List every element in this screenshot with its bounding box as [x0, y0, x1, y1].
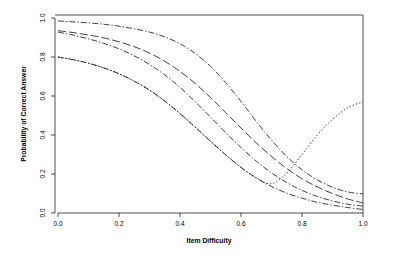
y-tick-label: 0.6: [39, 91, 46, 100]
x-tick-label: 0.0: [53, 220, 62, 227]
y-axis-title: Probability of Correct Answer: [20, 66, 28, 162]
x-axis-ticks: [58, 213, 363, 217]
x-axis-tick-labels: 0.0 0.2 0.4 0.6 0.8 1.0: [53, 220, 367, 227]
y-tick-label: 0.2: [39, 169, 46, 178]
y-tick-label: 0.8: [39, 52, 46, 61]
y-tick-label: 0.4: [39, 130, 46, 139]
x-axis-title: Item Difficulty: [187, 237, 232, 245]
y-tick-label: 1.0: [39, 13, 46, 22]
x-tick-label: 0.8: [297, 220, 306, 227]
y-tick-label: 0.0: [39, 208, 46, 217]
plot-area-background: [55, 15, 363, 213]
y-axis: 1.0 0.8 0.6 0.4 0.2 0.0 Probability of C…: [20, 13, 55, 217]
x-tick-label: 0.6: [236, 220, 245, 227]
x-tick-label: 0.2: [114, 220, 123, 227]
x-tick-label: 1.0: [358, 220, 367, 227]
y-axis-ticks: [51, 18, 55, 213]
x-axis: 0.0 0.2 0.4 0.6 0.8 1.0 Item Difficulty: [53, 213, 367, 245]
x-tick-label: 0.4: [175, 220, 184, 227]
item-characteristic-curve-chart: 1.0 0.8 0.6 0.4 0.2 0.0 Probability of C…: [0, 0, 395, 258]
y-axis-tick-labels: 1.0 0.8 0.6 0.4 0.2 0.0: [39, 13, 46, 217]
figure-panel: 1.0 0.8 0.6 0.4 0.2 0.0 Probability of C…: [0, 0, 395, 258]
